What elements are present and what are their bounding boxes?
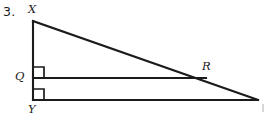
segment-xz (33, 21, 258, 100)
triangle-edges (33, 21, 258, 100)
geometry-figure: 3. X Q Y R (0, 0, 266, 121)
geometry-drawing (0, 0, 266, 121)
vertex-label-x: X (28, 4, 36, 16)
vertex-label-y: Y (28, 104, 36, 116)
right-angle-marker-y (33, 89, 44, 100)
right-angle-markers (33, 67, 44, 100)
vertex-label-r: R (202, 61, 211, 73)
item-number: 3. (3, 6, 15, 19)
right-angle-marker-q (33, 67, 44, 78)
vertex-label-q: Q (15, 71, 24, 83)
